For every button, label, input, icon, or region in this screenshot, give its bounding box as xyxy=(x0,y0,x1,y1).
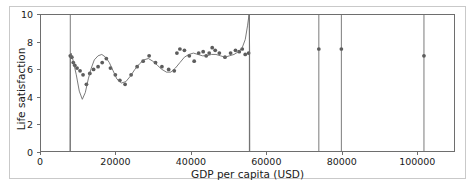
data-point xyxy=(339,47,343,51)
data-point xyxy=(243,53,247,57)
data-point xyxy=(75,66,79,70)
y-tick-mark xyxy=(37,42,40,43)
x-axis-label: GDP per capita (USD) xyxy=(40,168,455,180)
data-point xyxy=(78,69,82,73)
x-tick-label: 100000 xyxy=(399,156,435,167)
x-tick-label: 40000 xyxy=(176,156,206,167)
x-tick-mark xyxy=(115,152,116,155)
figure: GDP per capita (USD) Life satisfaction 0… xyxy=(0,0,476,190)
data-point xyxy=(100,61,104,65)
chart-canvas xyxy=(41,15,454,151)
y-tick-mark xyxy=(37,97,40,98)
data-point xyxy=(217,51,221,55)
data-point xyxy=(201,50,205,54)
data-point xyxy=(317,47,321,51)
y-tick-label: 10 xyxy=(21,9,33,20)
plot-area xyxy=(40,14,455,152)
y-tick-mark xyxy=(37,14,40,15)
data-point xyxy=(96,65,100,69)
data-point xyxy=(192,59,196,63)
x-tick-mark xyxy=(40,152,41,155)
y-axis-label: Life satisfaction xyxy=(15,24,27,154)
y-tick-mark xyxy=(37,69,40,70)
x-tick-mark xyxy=(342,152,343,155)
data-point xyxy=(229,51,233,55)
x-tick-label: 20000 xyxy=(100,156,130,167)
data-point xyxy=(183,48,187,52)
data-point xyxy=(167,68,171,72)
x-tick-mark xyxy=(417,152,418,155)
x-tick-label: 0 xyxy=(37,156,43,167)
regression-curve xyxy=(70,15,250,151)
data-point xyxy=(81,73,85,77)
y-tick-label: 6 xyxy=(27,64,33,75)
data-point xyxy=(178,47,182,51)
x-tick-label: 80000 xyxy=(327,156,357,167)
data-point xyxy=(234,48,238,52)
data-point xyxy=(147,54,151,58)
y-tick-label: 8 xyxy=(27,36,33,47)
scatter-series xyxy=(68,46,425,86)
data-point xyxy=(175,51,179,55)
y-tick-label: 4 xyxy=(27,91,33,102)
data-point xyxy=(422,54,426,58)
x-tick-mark xyxy=(266,152,267,155)
y-tick-label: 2 xyxy=(27,119,33,130)
y-tick-mark xyxy=(37,124,40,125)
data-point xyxy=(213,48,217,52)
data-point xyxy=(210,46,214,50)
data-point xyxy=(92,68,96,72)
y-tick-mark xyxy=(37,152,40,153)
data-point xyxy=(123,82,127,86)
y-tick-label: 0 xyxy=(27,147,33,158)
x-tick-mark xyxy=(191,152,192,155)
x-tick-label: 60000 xyxy=(251,156,281,167)
